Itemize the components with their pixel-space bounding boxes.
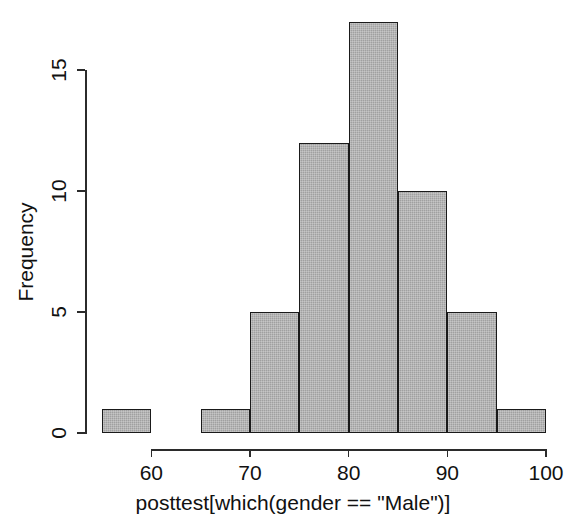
x-axis-tick [249,449,251,457]
x-axis-tick-label: 70 [238,462,261,483]
histogram-bar [497,409,546,433]
y-axis-tick [77,69,85,71]
y-axis-tick-label: 15 [48,58,69,81]
y-axis-tick-label: 10 [48,179,69,202]
x-axis-tick-label: 90 [436,462,459,483]
y-axis-tick [77,190,85,192]
histogram-bar [398,191,447,433]
x-axis-tick-label: 100 [528,462,563,483]
y-axis-title: Frequency [15,202,36,301]
y-axis-tick-label: 5 [48,306,69,318]
histogram-bar [349,22,398,433]
x-axis-tick-label: 80 [337,462,360,483]
plot-area [0,0,586,470]
x-axis-tick [545,449,547,457]
y-axis-line [85,70,87,434]
x-axis-tick [348,449,350,457]
y-axis-tick [77,311,85,313]
histogram-bar [201,409,250,433]
histogram-figure: 051015 Frequency 60708090100 posttest[wh… [0,0,586,528]
y-axis-tick [77,432,85,434]
x-axis-tick [151,449,153,457]
histogram-bar [250,312,299,433]
histogram-bar [447,312,496,433]
x-axis-tick [447,449,449,457]
histogram-bar [102,409,151,433]
x-axis-tick-label: 60 [140,462,163,483]
x-axis-title: posttest[which(gender == "Male")] [136,492,451,513]
histogram-bar [299,143,348,433]
y-axis-tick-label: 0 [48,427,69,439]
